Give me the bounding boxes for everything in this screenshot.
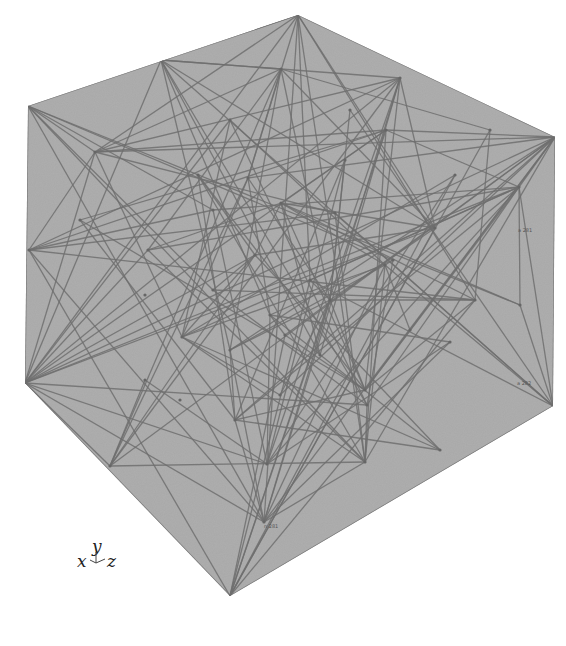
- mesh-node: [143, 293, 146, 296]
- mesh-node: [365, 403, 368, 406]
- mesh-node: [143, 378, 146, 381]
- mesh-node: [279, 201, 282, 204]
- mesh-node: [448, 340, 451, 343]
- node-label: n 281: [264, 523, 278, 529]
- mesh-node: [333, 211, 336, 214]
- axes-triad-icon: [88, 550, 108, 566]
- mesh-node: [233, 418, 236, 421]
- mesh-node: [108, 464, 111, 467]
- mesh-node: [27, 248, 30, 251]
- mesh-node: [228, 348, 231, 351]
- mesh-node: [363, 388, 366, 391]
- mesh-node: [328, 298, 331, 301]
- mesh-node: [391, 258, 394, 261]
- mesh-node: [398, 76, 401, 79]
- mesh-node: [433, 226, 436, 229]
- mesh-node: [348, 108, 351, 111]
- mesh-node: [268, 313, 271, 316]
- axis-x-label: x: [77, 551, 87, 571]
- node-label: a 282: [517, 380, 531, 386]
- mesh-node: [78, 218, 81, 221]
- axis-z-label: z: [107, 551, 116, 571]
- mesh-node: [383, 263, 386, 266]
- mesh-node: [228, 118, 231, 121]
- mesh-node: [178, 398, 181, 401]
- mesh-node: [438, 448, 441, 451]
- mesh-node: [408, 328, 411, 331]
- mesh-node: [180, 335, 183, 338]
- mesh-diagram: a 281a 282n 281: [0, 0, 566, 646]
- mesh-node: [159, 58, 162, 61]
- mesh-node: [283, 333, 286, 336]
- node-label: a 281: [518, 227, 532, 233]
- mesh-node: [211, 208, 214, 211]
- mesh-node: [473, 298, 476, 301]
- mesh-node: [265, 462, 268, 465]
- mesh-node: [246, 176, 249, 179]
- mesh-node: [146, 248, 149, 251]
- mesh-node: [343, 158, 346, 161]
- mesh-node: [384, 128, 387, 131]
- mesh-node: [278, 393, 281, 396]
- mesh-node: [253, 253, 256, 256]
- mesh-node: [211, 288, 214, 291]
- mesh-node: [279, 67, 282, 70]
- mesh-node: [196, 173, 199, 176]
- mesh-node: [93, 150, 96, 153]
- mesh-node: [453, 173, 456, 176]
- mesh-node: [517, 185, 520, 188]
- mesh-node: [488, 128, 491, 131]
- mesh-node: [318, 353, 321, 356]
- mesh-node: [518, 303, 521, 306]
- mesh-node: [363, 460, 366, 463]
- mesh-node: [308, 278, 311, 281]
